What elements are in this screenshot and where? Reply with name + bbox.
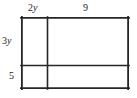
figure-container: 2y 9 3y 5	[0, 0, 137, 98]
cell-top-left	[21, 17, 47, 65]
dimension-label-left-lower: 5	[9, 71, 14, 81]
rectangle-cells	[21, 17, 129, 89]
dimension-label-top-right: 9	[83, 3, 88, 13]
cell-bottom-right	[47, 65, 129, 89]
dimension-label-top-left: 2y	[28, 3, 37, 13]
rectangle-diagram-svg	[0, 0, 137, 98]
dimension-label-left-upper: 3y	[2, 36, 11, 46]
cell-bottom-left	[21, 65, 47, 89]
cell-top-right	[47, 17, 129, 65]
